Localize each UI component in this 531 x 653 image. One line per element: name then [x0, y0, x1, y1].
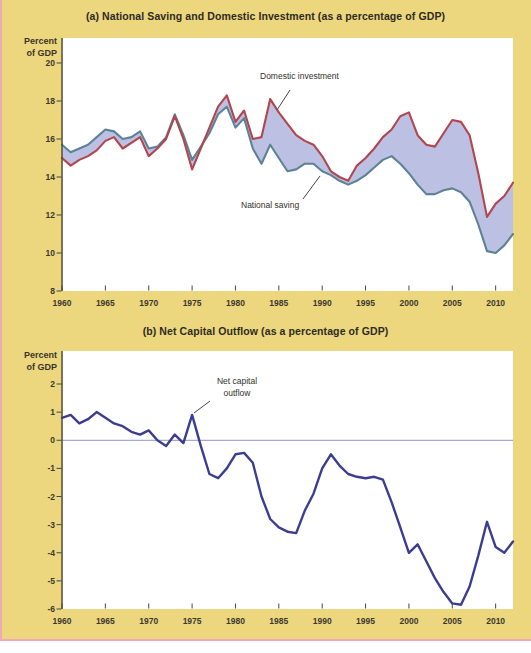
tick-label: 2005: [443, 298, 462, 308]
panel-a-y-axis-label-line2: of GDP: [6, 47, 57, 59]
tick-label: 10: [46, 248, 56, 258]
domestic-investment-label: Domestic investment: [260, 71, 339, 81]
panel-b-y-axis-label: Percent of GDP: [6, 349, 57, 373]
tick-label: 18: [46, 96, 56, 106]
tick-label: -4: [47, 548, 55, 558]
tick-label: 1985: [269, 616, 288, 626]
tick-label: -2: [47, 492, 55, 502]
tick-label: 14: [46, 172, 56, 182]
panel-a-y-ticks: 2018161412108: [46, 58, 62, 296]
net-capital-outflow-label: Net capital outflow: [203, 376, 271, 399]
tick-label: 20: [46, 58, 56, 68]
tick-label: 1980: [226, 616, 245, 626]
tick-label: 1965: [96, 616, 115, 626]
tick-label: 2000: [399, 616, 418, 626]
tick-label: 1965: [96, 298, 115, 308]
panel-b-y-ticks: 210-1-2-3-4-5-6: [47, 379, 61, 614]
tick-label: 1990: [313, 616, 332, 626]
tick-label: 0: [50, 435, 55, 445]
tick-label: 1960: [53, 298, 72, 308]
tick-label: 2010: [486, 616, 505, 626]
panel-b: 210-1-2-3-4-5-6 196019651970197519801985…: [47, 351, 513, 626]
panel-b-y-axis-label-line1: Percent: [6, 349, 57, 361]
tick-label: 1: [50, 407, 55, 417]
panel-b-title: (b) Net Capital Outflow (as a percentage…: [0, 325, 531, 337]
tick-label: 1975: [183, 616, 202, 626]
tick-label: 1970: [139, 298, 158, 308]
tick-label: 1990: [313, 298, 332, 308]
tick-label: 1995: [356, 616, 375, 626]
net-capital-outflow-label-line2: outflow: [203, 388, 271, 400]
panel-a-y-axis-label-line1: Percent: [6, 35, 57, 47]
tick-label: 1970: [139, 616, 158, 626]
tick-label: 16: [46, 134, 56, 144]
tick-label: 8: [50, 286, 55, 296]
tick-label: -3: [47, 520, 55, 530]
tick-label: 1985: [269, 298, 288, 308]
tick-label: 2000: [399, 298, 418, 308]
tick-label: 2: [50, 379, 55, 389]
tick-label: 1980: [226, 298, 245, 308]
tick-label: 12: [46, 210, 56, 220]
tick-label: -1: [47, 463, 55, 473]
panel-a-y-axis-label: Percent of GDP: [6, 35, 57, 59]
net-capital-outflow-label-line1: Net capital: [203, 376, 271, 388]
panel-b-plot-area: [63, 351, 513, 609]
figure: 2018161412108 19601965197019751980198519…: [0, 0, 531, 653]
tick-label: 1960: [53, 616, 72, 626]
tick-label: 2010: [486, 298, 505, 308]
tick-label: -5: [47, 576, 55, 586]
tick-label: 1995: [356, 298, 375, 308]
tick-label: 2005: [443, 616, 462, 626]
national-saving-label: National saving: [241, 200, 299, 210]
tick-label: -6: [47, 604, 55, 614]
tick-label: 1975: [183, 298, 202, 308]
panel-b-y-axis-label-line2: of GDP: [6, 361, 57, 373]
panel-a-title: (a) National Saving and Domestic Investm…: [0, 10, 531, 22]
